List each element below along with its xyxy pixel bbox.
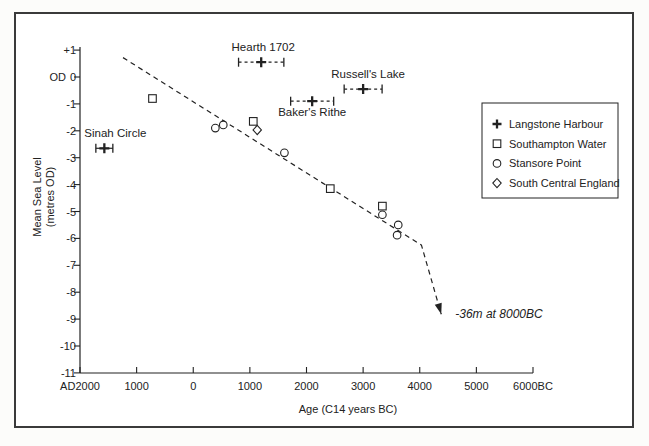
y-tick-label: -4 <box>66 179 76 191</box>
marker-plus <box>358 84 368 94</box>
y-tick-label: -9 <box>66 313 76 325</box>
x-tick-label: AD2000 <box>60 380 100 392</box>
plot-axes-group: +10OD-1-2-3-4-5-6-7-8-9-10-11AD200010000… <box>31 44 553 415</box>
x-tick-label: 1000 <box>238 380 262 392</box>
legend-item-label: Southampton Water <box>509 138 607 150</box>
y-tick-label: -8 <box>66 286 76 298</box>
legend-group: Langstone HarbourSouthampton WaterStanso… <box>482 103 620 198</box>
x-axis-title: Age (C14 years BC) <box>299 403 397 415</box>
marker-circle <box>393 231 401 239</box>
x-tick-label: 6000BC <box>513 380 553 392</box>
annotations-group: -36m at 8000BCSinah CircleHearth 1702Bak… <box>84 41 543 321</box>
trend-annotation: -36m at 8000BC <box>455 307 543 321</box>
point-label: Sinah Circle <box>84 127 146 139</box>
marker-square <box>379 202 387 210</box>
legend-item: Langstone Harbour <box>493 118 604 130</box>
trend-arrowhead <box>435 303 442 315</box>
marker-circle <box>493 160 501 168</box>
y-tick-label: -10 <box>60 340 76 352</box>
scanned-figure-page: +10OD-1-2-3-4-5-6-7-8-9-10-11AD200010000… <box>0 0 649 446</box>
point-label: Hearth 1702 <box>232 41 295 53</box>
y-tick-label: -7 <box>66 259 76 271</box>
marker-circle <box>379 211 387 219</box>
point-label: Russell's Lake <box>331 68 405 80</box>
marker-square <box>493 140 501 148</box>
y-tick-label: +1 <box>63 44 76 56</box>
y-tick-label: -1 <box>66 98 76 110</box>
marker-diamond <box>253 125 261 134</box>
x-tick-label: 0 <box>190 380 196 392</box>
trend-line <box>123 58 441 315</box>
marker-plus <box>99 143 109 153</box>
point-label: Baker's Rithe <box>278 106 346 118</box>
trend-line-group <box>123 58 442 315</box>
x-tick-label: 3000 <box>351 380 375 392</box>
y-tick-label: -11 <box>61 367 76 379</box>
y-tick-label: -6 <box>66 232 76 244</box>
x-tick-label: 2000 <box>294 380 318 392</box>
od-label: OD <box>50 71 67 83</box>
sea-level-chart: +10OD-1-2-3-4-5-6-7-8-9-10-11AD200010000… <box>0 0 649 446</box>
marker-circle <box>394 221 402 229</box>
marker-square <box>149 95 157 103</box>
marker-plus <box>256 57 266 67</box>
marker-plus <box>307 96 317 106</box>
legend-item-label: Langstone Harbour <box>509 118 604 130</box>
marker-square <box>249 118 257 126</box>
data-points-group <box>96 57 402 239</box>
legend-item: South Central England <box>493 177 620 189</box>
marker-circle <box>212 124 220 132</box>
y-tick-label: 0 <box>70 71 76 83</box>
legend-item-label: South Central England <box>509 177 620 189</box>
y-tick-label: -5 <box>66 206 76 218</box>
y-tick-label: -2 <box>66 125 76 137</box>
marker-square <box>326 185 334 193</box>
legend-item-label: Stansore Point <box>509 157 581 169</box>
y-axis-title-line2: (metres OD) <box>44 167 56 228</box>
x-tick-label: 5000 <box>464 380 488 392</box>
marker-circle <box>219 121 227 129</box>
marker-circle <box>281 149 289 157</box>
legend-item: Southampton Water <box>493 138 607 150</box>
y-tick-label: -3 <box>66 152 76 164</box>
x-tick-label: 1000 <box>124 380 148 392</box>
y-axis-title-line1: Mean Sea Level <box>31 157 43 237</box>
x-tick-label: 4000 <box>408 380 432 392</box>
